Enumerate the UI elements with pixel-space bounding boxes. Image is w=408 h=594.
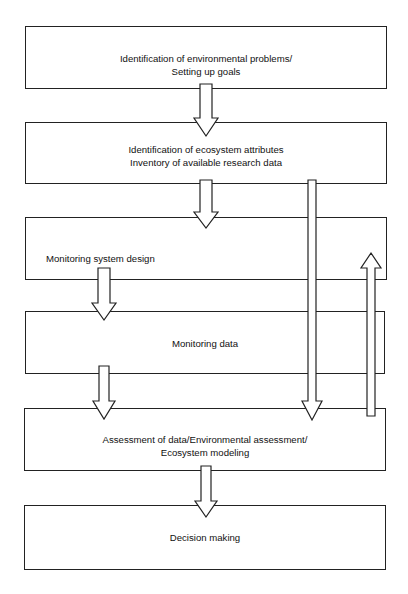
arrow-down-icon [92, 268, 116, 320]
label-line: Ecosystem modeling [24, 446, 386, 459]
label-line: Identification of environmental problems… [25, 52, 387, 65]
label-box6: Decision making [24, 531, 386, 544]
label-line: Monitoring system design [46, 252, 155, 265]
arrow-down-icon [195, 466, 217, 517]
label-box3: Monitoring system design [46, 252, 155, 265]
label-line: Inventory of available research data [25, 156, 387, 169]
label-line: Monitoring data [25, 337, 385, 350]
arrow-down-icon [194, 84, 218, 136]
label-box2: Identification of ecosystem attributes I… [25, 143, 387, 169]
arrow-down-icon [194, 180, 218, 228]
label-box1: Identification of environmental problems… [25, 52, 387, 78]
long-arrow-down-icon [302, 180, 322, 420]
label-line: Setting up goals [25, 65, 387, 78]
label-box5: Assessment of data/Environmental assessm… [24, 433, 386, 459]
arrow-down-icon [93, 366, 115, 419]
arrow-up-icon [361, 253, 381, 416]
label-box4: Monitoring data [25, 337, 385, 350]
label-line: Assessment of data/Environmental assessm… [24, 433, 386, 446]
arrows-layer [0, 0, 408, 594]
label-line: Identification of ecosystem attributes [25, 143, 387, 156]
label-line: Decision making [24, 531, 386, 544]
